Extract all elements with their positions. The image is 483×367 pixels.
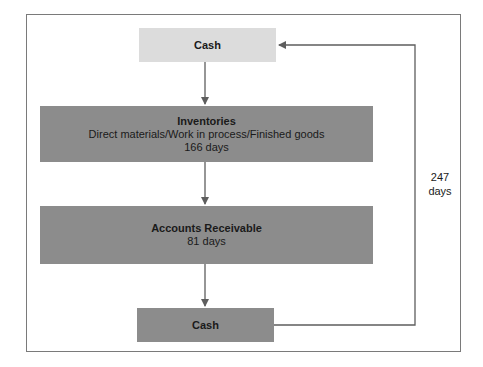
node-inventories: Inventories Direct materials/Work in pro… — [40, 106, 373, 162]
node-accounts-receivable: Accounts Receivable 81 days — [40, 206, 373, 264]
node-title: Cash — [192, 319, 219, 332]
node-days: 166 days — [184, 141, 229, 154]
node-title: Cash — [194, 39, 221, 52]
cycle-duration-label: 247 days — [420, 170, 460, 198]
node-cash-start: Cash — [139, 28, 276, 62]
diagram-frame — [26, 14, 461, 352]
cycle-days-unit: days — [420, 184, 460, 198]
node-days: 81 days — [187, 235, 226, 248]
node-subtitle: Direct materials/Work in process/Finishe… — [89, 128, 325, 141]
node-title: Inventories — [177, 115, 236, 128]
node-title: Accounts Receivable — [151, 222, 262, 235]
cycle-days-value: 247 — [420, 170, 460, 184]
node-cash-end: Cash — [137, 308, 274, 342]
